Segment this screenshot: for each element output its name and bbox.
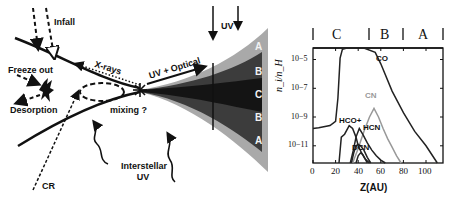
mixing-loop [80, 83, 124, 101]
zone-label-A: A [418, 28, 428, 42]
layer-label-A-top: A [255, 42, 262, 52]
disk-layers [140, 28, 268, 172]
label-interstellar-uv: Interstellar UV [121, 162, 165, 182]
label-uv-top: UV [221, 22, 234, 31]
y-tick-1e-11: 10−11 [288, 141, 308, 149]
infall-arrow-2 [46, 8, 54, 56]
infall-arrow-1 [33, 8, 38, 48]
label-uv-bottom: UV [121, 173, 165, 182]
label-freeze-out: Freeze out [8, 66, 53, 75]
x-tick-0: 0 [310, 167, 315, 176]
series-CO [313, 48, 437, 163]
zone-label-B: B [380, 28, 389, 42]
x-tick-40: 40 [354, 167, 363, 176]
label-interstellar: Interstellar [121, 162, 165, 171]
grain-icon [39, 78, 54, 102]
label-mixing: mixing ? [110, 106, 147, 115]
upper-disk-surface [15, 38, 140, 88]
layer-label-B-top: B [255, 67, 262, 77]
x-axis-label: Z(AU) [360, 183, 387, 193]
y-tick-1e-5: 10−5 [291, 55, 308, 63]
y-tick-1e-7: 10−7 [291, 84, 308, 92]
series-label-HCO+: HCO+ [339, 117, 361, 125]
x-tick-60: 60 [376, 167, 385, 176]
layer-label-C: C [255, 90, 262, 100]
interstellar-uv-wave-1 [94, 122, 108, 164]
figure: Infall Freeze out X-rays Desorption mixi… [0, 0, 453, 202]
layer-label-B-bottom: B [255, 113, 262, 123]
abundance-chart [313, 28, 443, 163]
y-tick-1e-9: 10−9 [291, 113, 308, 121]
y-axis-label: n_i/n_H [274, 59, 284, 92]
freeze-out-arrow [17, 75, 38, 84]
series-label-HCN: HCN [363, 124, 380, 132]
layer-label-A-bottom: A [255, 136, 262, 146]
zone-label-C: C [332, 28, 341, 42]
desorption-arrow [17, 95, 40, 103]
interstellar-uv-wave-2 [168, 134, 175, 182]
label-cr: CR [42, 182, 55, 191]
series-label-DCN: DCN [352, 144, 369, 152]
label-infall: Infall [54, 18, 75, 27]
label-desorption: Desorption [10, 106, 58, 115]
plot-frame [313, 48, 443, 163]
star-icon [133, 83, 147, 97]
series-label-CN: CN [365, 92, 377, 100]
lower-disk-surface [18, 92, 140, 146]
series-label-CO: CO [376, 55, 388, 63]
x-tick-20: 20 [331, 167, 340, 176]
x-tick-100: 100 [418, 167, 432, 176]
x-tick-80: 80 [399, 167, 408, 176]
